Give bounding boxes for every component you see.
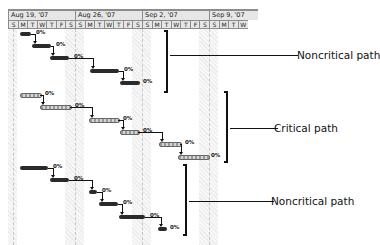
day-label: S — [65, 20, 75, 29]
percent-complete: 0% — [102, 187, 111, 193]
critical-task-bar — [159, 142, 182, 147]
percent-complete: 0% — [123, 199, 132, 205]
day-label: S — [8, 20, 18, 29]
callout-label: Noncritical path — [297, 49, 380, 61]
day-label: T — [94, 20, 104, 29]
percent-complete: 0% — [53, 163, 62, 169]
percent-complete: 0% — [143, 78, 152, 84]
day-label: F — [56, 20, 66, 29]
day-label: F — [123, 20, 133, 29]
day-label: S — [199, 20, 209, 29]
percent-complete: 0% — [45, 90, 54, 96]
day-label: M — [152, 20, 162, 29]
day-label: T — [180, 20, 190, 29]
percent-complete: 0% — [123, 115, 132, 121]
day-label: F — [190, 20, 200, 29]
percent-complete: 0% — [36, 29, 45, 35]
critical-task-bar — [40, 105, 72, 110]
day-label: M — [219, 20, 229, 29]
noncritical-task-bar — [89, 190, 97, 194]
day-label: S — [132, 20, 142, 29]
day-label: T — [46, 20, 56, 29]
noncritical-task-bar — [119, 215, 145, 219]
critical-task-bar — [20, 93, 42, 98]
percent-complete: 0% — [143, 127, 152, 133]
percent-complete: 0% — [170, 224, 179, 230]
weekend-divider — [75, 29, 76, 245]
noncritical-task-bar — [90, 69, 119, 73]
day-label: M — [85, 20, 95, 29]
percent-complete: 0% — [211, 152, 220, 158]
day-label: W — [238, 20, 248, 29]
critical-task-bar — [120, 130, 140, 135]
percent-complete: 0% — [185, 139, 194, 145]
gantt-chart: Aug 19, '07Aug 26, '07Sep 2, '07Sep 9, '… — [8, 9, 258, 245]
noncritical-task-bar — [20, 166, 48, 170]
noncritical-task-bar — [50, 178, 69, 182]
noncritical-task-bar — [158, 227, 167, 231]
day-label: S — [142, 20, 152, 29]
day-label: T — [161, 20, 171, 29]
callout-line — [230, 128, 278, 129]
percent-complete: 0% — [75, 102, 84, 108]
week-label: Aug 19, '07 — [8, 11, 75, 20]
callout-line — [170, 55, 298, 56]
weekend-divider — [142, 29, 143, 245]
weekend-divider — [209, 29, 210, 245]
day-label: S — [75, 20, 85, 29]
week-label: Sep 9, '07 — [209, 11, 258, 20]
group-bracket — [224, 91, 228, 163]
group-bracket — [183, 164, 187, 236]
noncritical-task-bar — [120, 81, 140, 85]
day-label: S — [209, 20, 219, 29]
noncritical-task-bar — [32, 44, 51, 48]
critical-task-bar — [89, 118, 120, 123]
day-label: T — [113, 20, 123, 29]
noncritical-task-bar — [20, 32, 31, 36]
critical-task-bar — [178, 155, 210, 160]
day-label: W — [37, 20, 47, 29]
day-label: M — [18, 20, 28, 29]
week-label: Sep 2, '07 — [142, 11, 209, 20]
noncritical-task-bar — [50, 56, 69, 60]
group-bracket — [164, 30, 168, 93]
day-label: W — [104, 20, 114, 29]
callout-line — [189, 201, 274, 202]
noncritical-task-bar — [99, 202, 118, 206]
weekend-divider — [13, 29, 14, 245]
day-label: T — [27, 20, 37, 29]
percent-complete: 0% — [150, 212, 159, 218]
day-label: W — [171, 20, 181, 29]
percent-complete: 0% — [74, 175, 83, 181]
percent-complete: 0% — [56, 41, 65, 47]
week-label: Aug 26, '07 — [75, 11, 142, 20]
callout-label: Critical path — [274, 122, 338, 134]
percent-complete: 0% — [124, 66, 133, 72]
callout-label: Noncritical path — [271, 195, 354, 207]
day-label: T — [228, 20, 238, 29]
percent-complete: 0% — [74, 53, 83, 59]
